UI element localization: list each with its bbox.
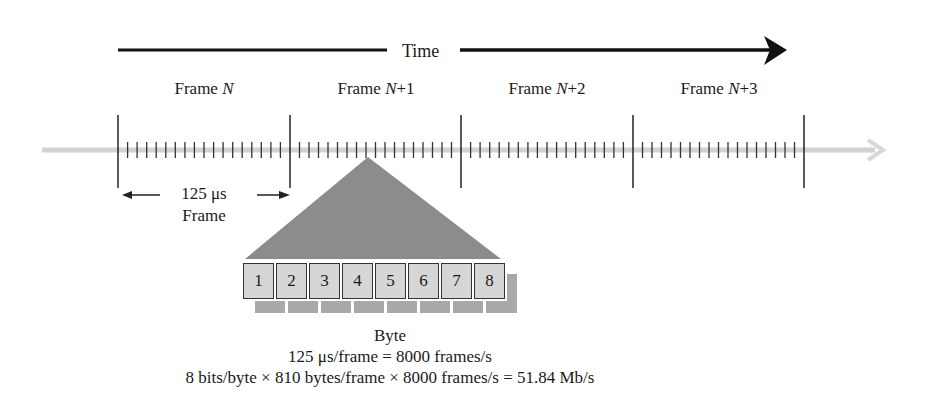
bit-shadow: [255, 301, 285, 313]
bit-box-6: 6: [408, 263, 439, 299]
bit-shadow: [486, 301, 517, 313]
byte-label: Byte: [0, 326, 780, 346]
bitrate-equation: 8 bits/byte × 810 bytes/frame × 8000 fra…: [0, 368, 780, 388]
bit-shadow: [354, 301, 384, 313]
frame-duration-label: 125 μs Frame: [172, 183, 236, 227]
time-axis-label: Time: [402, 41, 439, 62]
duration-arrow-right-icon: [279, 191, 290, 199]
frame-label-n-plus-3: Frame N+3: [633, 79, 805, 99]
expansion-triangle: [245, 157, 501, 259]
bit-box-3: 3: [309, 263, 340, 299]
bit-shadow: [453, 301, 483, 313]
duration-arrow-left-icon: [122, 191, 132, 199]
frame-duration-caption: Frame: [172, 205, 236, 227]
bit-box-2: 2: [276, 263, 307, 299]
bit-shadow: [321, 301, 351, 313]
bit-shadow: [420, 301, 450, 313]
frame-rate-equation: 125 μs/frame = 8000 frames/s: [0, 347, 780, 367]
bit-box-7: 7: [441, 263, 472, 299]
bit-box-5: 5: [375, 263, 406, 299]
frame-label-n-plus-1: Frame N+1: [290, 79, 462, 99]
frame-label-n-plus-2: Frame N+2: [461, 79, 633, 99]
bit-box-4: 4: [342, 263, 373, 299]
bit-box-1: 1: [243, 263, 274, 299]
bit-box-8: 8: [474, 263, 505, 299]
bit-shadow: [288, 301, 318, 313]
bit-shadow: [387, 301, 417, 313]
frame-duration-value: 125 μs: [172, 183, 236, 205]
frame-label-n: Frame N: [118, 79, 290, 99]
